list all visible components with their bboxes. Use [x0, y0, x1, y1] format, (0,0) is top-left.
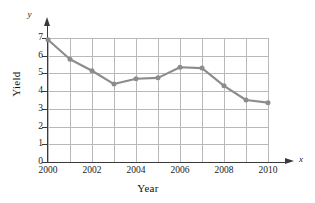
data-series-layer [0, 0, 315, 203]
yield-line [48, 40, 268, 103]
x-axis-variable-label: x [299, 154, 303, 164]
data-point-marker [90, 68, 95, 73]
data-point-marker [46, 37, 51, 42]
data-point-marker [134, 76, 139, 81]
chart-figure: 01234567200020022004200620082010 y x Yie… [0, 0, 315, 203]
y-axis-variable-label: y [28, 9, 32, 19]
x-axis-title: Year [118, 182, 178, 194]
data-point-marker [68, 57, 73, 62]
data-point-marker [156, 75, 161, 80]
data-point-marker [112, 82, 117, 87]
data-point-marker [178, 65, 183, 70]
data-point-marker [266, 100, 271, 105]
data-point-marker [222, 83, 227, 88]
data-point-marker [244, 98, 249, 103]
y-axis-title: Yield [10, 54, 22, 114]
data-point-marker [200, 66, 205, 71]
